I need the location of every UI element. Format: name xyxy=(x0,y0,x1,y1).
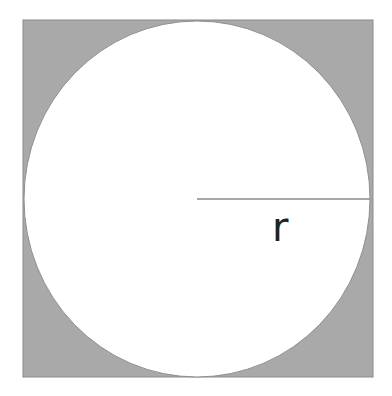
radius-label: r xyxy=(272,204,289,250)
circle-in-square-diagram: r xyxy=(0,0,392,396)
